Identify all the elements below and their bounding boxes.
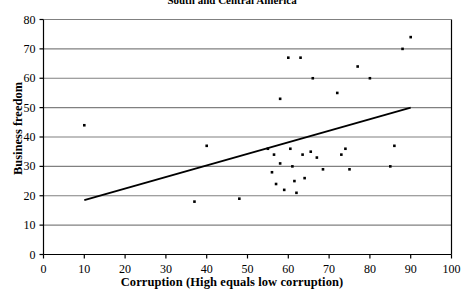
y-tick-label-0: 0: [10, 249, 36, 261]
y-tick-label-30: 30: [10, 160, 36, 172]
chart-figure: South and Central America Business freed…: [0, 0, 464, 296]
data-point: [291, 165, 294, 168]
x-tick-label-90: 90: [396, 263, 426, 275]
data-point: [301, 153, 304, 156]
data-point: [273, 153, 276, 156]
data-point: [322, 168, 325, 171]
x-tick-label-0: 0: [29, 263, 59, 275]
data-point: [389, 165, 392, 168]
data-point: [299, 56, 302, 59]
data-point: [348, 168, 351, 171]
data-point: [336, 92, 339, 95]
data-point: [401, 48, 404, 51]
y-tick-label-70: 70: [10, 43, 36, 55]
x-tick-label-20: 20: [110, 263, 140, 275]
data-point: [205, 145, 208, 148]
y-tick-label-20: 20: [10, 190, 36, 202]
data-point: [356, 65, 359, 68]
data-point: [369, 77, 372, 80]
data-point: [295, 192, 298, 195]
y-tick-label-60: 60: [10, 72, 36, 84]
scatter-plot-canvas: [0, 0, 464, 296]
data-point: [279, 98, 282, 101]
trendline: [84, 108, 410, 201]
data-point: [271, 171, 274, 174]
data-point: [409, 36, 412, 39]
x-tick-label-100: 100: [437, 263, 464, 275]
data-point: [316, 156, 319, 159]
data-point: [275, 183, 278, 186]
y-tick-label-10: 10: [10, 219, 36, 231]
data-point: [287, 56, 290, 59]
x-tick-label-50: 50: [233, 263, 263, 275]
data-point: [289, 147, 292, 150]
x-tick-label-10: 10: [69, 263, 99, 275]
tick-marks: [40, 20, 452, 259]
y-tick-label-40: 40: [10, 131, 36, 143]
data-point: [303, 177, 306, 180]
x-tick-label-60: 60: [273, 263, 303, 275]
data-point: [193, 200, 196, 203]
data-point: [83, 124, 86, 127]
x-axis-title: Corruption (High equals low corruption): [0, 275, 464, 290]
data-point: [267, 147, 270, 150]
x-tick-label-80: 80: [355, 263, 385, 275]
data-point: [309, 150, 312, 153]
data-point: [311, 77, 314, 80]
y-tick-label-50: 50: [10, 102, 36, 114]
data-points: [83, 36, 412, 203]
x-tick-label-40: 40: [192, 263, 222, 275]
data-point: [238, 197, 241, 200]
data-point: [340, 153, 343, 156]
y-tick-label-80: 80: [10, 14, 36, 26]
data-point: [279, 162, 282, 165]
data-point: [344, 147, 347, 150]
data-point: [293, 180, 296, 183]
data-point: [393, 145, 396, 148]
x-tick-label-30: 30: [151, 263, 181, 275]
data-point: [283, 189, 286, 192]
x-tick-label-70: 70: [314, 263, 344, 275]
